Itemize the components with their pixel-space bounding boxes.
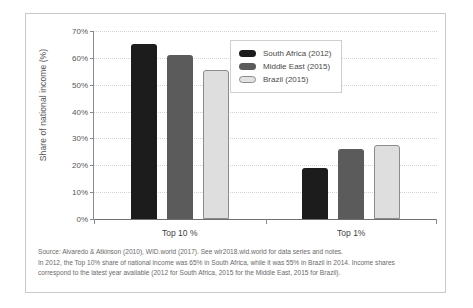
bar (131, 44, 157, 219)
legend-item: Brazil (2015) (239, 73, 331, 86)
y-axis-tick-label: 70% (72, 27, 88, 36)
x-axis-group-label: Top 1% (337, 228, 365, 238)
bar (167, 55, 193, 219)
y-axis-tick-label: 40% (72, 107, 88, 116)
legend-item-label: Brazil (2015) (263, 75, 308, 84)
legend-item-label: Middle East (2015) (263, 62, 330, 71)
x-axis-tick-mark (94, 219, 95, 224)
x-axis-tick-mark (436, 219, 437, 224)
caption-line-source: Source: Alvaredo & Atkinson (2010), WID.… (38, 247, 435, 258)
y-axis-tick-label: 50% (72, 80, 88, 89)
x-axis-group-label: Top 10 % (162, 228, 197, 238)
legend-item: Middle East (2015) (239, 60, 331, 73)
legend-swatch-icon (239, 76, 256, 83)
chart-legend: South Africa (2012) Middle East (2015) B… (230, 40, 342, 93)
y-axis-tick-label: 30% (72, 134, 88, 143)
bar (374, 145, 400, 219)
y-axis-tick-label: 60% (72, 53, 88, 62)
legend-item-label: South Africa (2012) (263, 49, 331, 58)
y-axis-tick-label: 20% (72, 161, 88, 170)
y-axis-tick-label: 0% (76, 215, 88, 224)
caption-line-note-1: In 2012, the Top 10% share of national i… (38, 258, 435, 269)
legend-swatch-icon (239, 63, 256, 70)
x-axis-tick-mark (266, 219, 267, 224)
caption-line-note-2: correspond to the latest year available … (38, 268, 435, 279)
legend-item: South Africa (2012) (239, 47, 331, 60)
legend-swatch-icon (239, 50, 256, 57)
bar (302, 168, 328, 219)
y-axis-tick-label: 10% (72, 188, 88, 197)
chart-plot-region: Share of national income (%) 0%10%20%30%… (26, 14, 445, 236)
bar (203, 70, 229, 219)
figure-caption: Source: Alvaredo & Atkinson (2010), WID.… (38, 247, 435, 279)
y-axis-title: Share of national income (%) (38, 25, 48, 185)
chart-figure: Share of national income (%) 0%10%20%30%… (25, 13, 446, 293)
bar (338, 149, 364, 219)
